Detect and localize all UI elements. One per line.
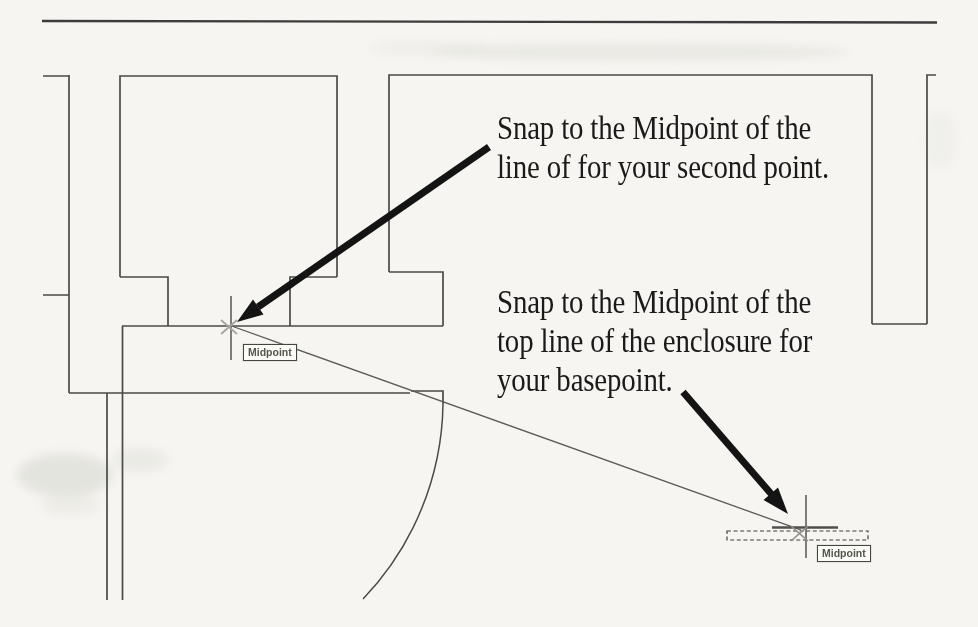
- annotation-line: Snap to the Midpoint of the: [497, 108, 829, 147]
- annotation-line: your basepoint.: [497, 360, 812, 399]
- annotation-line: top line of the enclosure for: [497, 321, 812, 360]
- osnap-tooltip-midpoint-2: Midpoint: [817, 545, 871, 562]
- annotation-line: line of for your second point.: [497, 147, 829, 186]
- annotation-second-point: Snap to the Midpoint of the line of for …: [497, 108, 829, 186]
- page-top-rule: [42, 21, 937, 23]
- left-pilaster: [120, 76, 337, 326]
- arrow-to-second-point: [237, 147, 489, 322]
- lower-wall-line: [69, 391, 443, 404]
- annotation-line: Snap to the Midpoint of the: [497, 282, 812, 321]
- annotation-basepoint: Snap to the Midpoint of the top line of …: [497, 282, 812, 399]
- scanned-tutorial-page: Snap to the Midpoint of the line of for …: [0, 0, 978, 627]
- floor-plan-drawing: [0, 0, 978, 627]
- left-wall: [43, 75, 69, 393]
- arrow-to-basepoint: [683, 392, 788, 514]
- door-swing-arc: [363, 404, 443, 599]
- osnap-tooltip-midpoint-1: Midpoint: [243, 344, 297, 361]
- crosshair-second-point: [221, 296, 237, 360]
- right-channel: [872, 75, 936, 324]
